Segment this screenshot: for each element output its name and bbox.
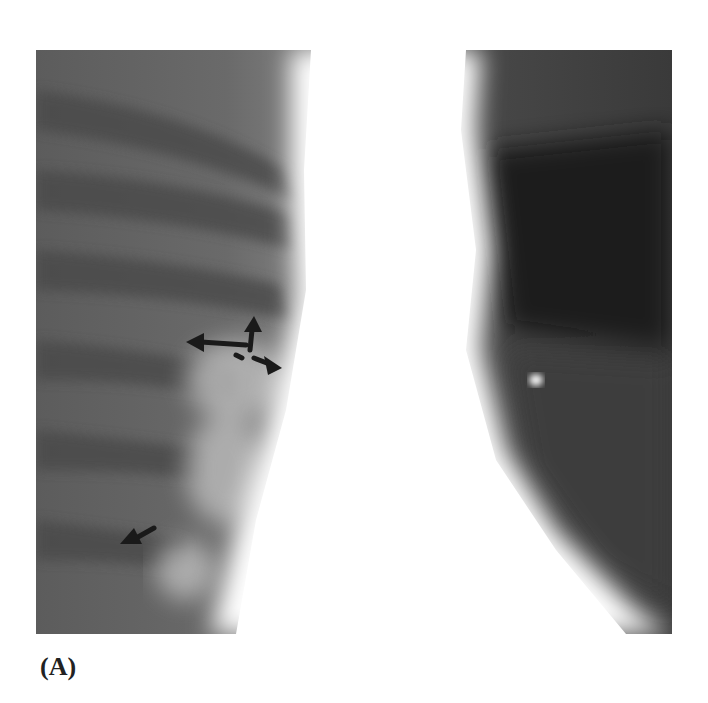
panel-label: (A) (40, 652, 76, 682)
arrow-left-hilum (201, 342, 246, 345)
xray-image (36, 50, 672, 634)
